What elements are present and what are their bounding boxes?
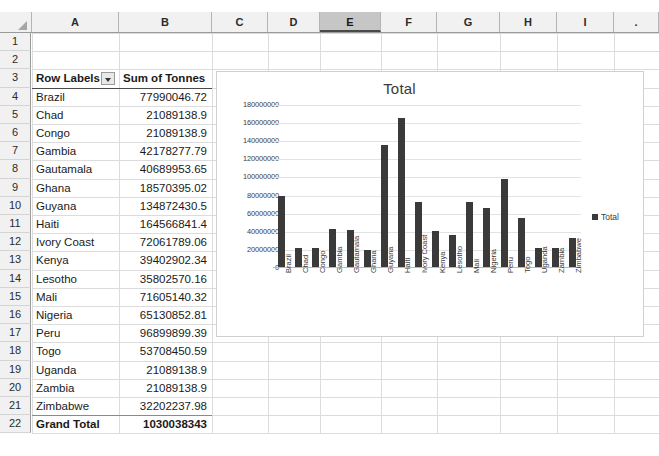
gridline-horizontal bbox=[32, 33, 659, 34]
pivot-sum-of-tonnes-header[interactable]: Sum of Tonnes bbox=[120, 70, 211, 87]
y-axis-tick-labels: 1800000001600000001400000001200000001000… bbox=[209, 72, 279, 336]
x-tick-ivory-coast: Ivory Coast bbox=[421, 235, 429, 273]
cell-country-haiti[interactable]: Haiti bbox=[33, 216, 118, 233]
cell-tonnes-uganda[interactable]: 21089138.9 bbox=[120, 362, 211, 379]
cell-country-zimbabwe[interactable]: Zimbabwe bbox=[33, 398, 118, 415]
row-header-19[interactable]: 19 bbox=[0, 361, 31, 379]
row-header-8[interactable]: 8 bbox=[0, 160, 31, 178]
column-header-b[interactable]: B bbox=[119, 12, 212, 32]
cell-tonnes-nigeria[interactable]: 65130852.81 bbox=[120, 307, 211, 324]
y-tick-40000000: 40000000 bbox=[217, 228, 279, 236]
cell-tonnes-lesotho[interactable]: 35802570.16 bbox=[120, 271, 211, 288]
y-tick-180000000: 180000000 bbox=[217, 101, 279, 109]
legend-swatch-total bbox=[592, 214, 598, 220]
x-tick-nigeria: Nigeria bbox=[490, 249, 498, 273]
row-header-15[interactable]: 15 bbox=[0, 288, 31, 306]
cell-country-guyana[interactable]: Guyana bbox=[33, 198, 118, 215]
x-tick-lesotho: Lesotho bbox=[456, 246, 464, 273]
cell-country-zambia[interactable]: Zambia bbox=[33, 380, 118, 397]
cell-country-uganda[interactable]: Uganda bbox=[33, 362, 118, 379]
cell-tonnes-brazil[interactable]: 77990046.72 bbox=[120, 89, 211, 106]
cell-tonnes-haiti[interactable]: 164566841.4 bbox=[120, 216, 211, 233]
row-header-18[interactable]: 18 bbox=[0, 342, 31, 360]
row-header-17[interactable]: 17 bbox=[0, 324, 31, 342]
row-header-22[interactable]: 22 bbox=[0, 415, 31, 433]
column-header-j-partial[interactable]: . bbox=[614, 12, 659, 32]
chart-gridline bbox=[273, 196, 581, 197]
column-header-f[interactable]: F bbox=[381, 12, 437, 32]
cell-grand-total-label[interactable]: Grand Total bbox=[33, 416, 118, 433]
x-tick-congo: Congo bbox=[319, 251, 327, 273]
x-tick-uganda: Uganda bbox=[541, 246, 549, 273]
cell-tonnes-guyana[interactable]: 134872430.5 bbox=[120, 198, 211, 215]
cell-country-ivory-coast[interactable]: Ivory Coast bbox=[33, 234, 118, 251]
chart-bar-haiti bbox=[398, 118, 405, 267]
y-tick-140000000: 140000000 bbox=[217, 137, 279, 145]
chart-gridline bbox=[273, 177, 581, 178]
cell-tonnes-togo[interactable]: 53708450.59 bbox=[120, 343, 211, 360]
column-header-g[interactable]: G bbox=[437, 12, 500, 32]
y-tick-100000000: 100000000 bbox=[217, 173, 279, 181]
cell-tonnes-zambia[interactable]: 21089138.9 bbox=[120, 380, 211, 397]
cell-tonnes-kenya[interactable]: 39402902.34 bbox=[120, 252, 211, 269]
cell-tonnes-congo[interactable]: 21089138.9 bbox=[120, 125, 211, 142]
chart-gridline bbox=[273, 214, 581, 215]
cell-tonnes-gautamala[interactable]: 40689953.65 bbox=[120, 161, 211, 178]
column-header-c[interactable]: C bbox=[212, 12, 268, 32]
row-header-14[interactable]: 14 bbox=[0, 270, 31, 288]
filter-dropdown-icon[interactable] bbox=[101, 72, 115, 85]
cell-tonnes-ghana[interactable]: 18570395.02 bbox=[120, 180, 211, 197]
row-header-6[interactable]: 6 bbox=[0, 124, 31, 142]
row-header-16[interactable]: 16 bbox=[0, 306, 31, 324]
select-all-corner-button[interactable] bbox=[0, 12, 32, 32]
x-tick-kenya: Kenya bbox=[439, 251, 447, 273]
cell-tonnes-peru[interactable]: 96899899.39 bbox=[120, 325, 211, 342]
column-header-i[interactable]: I bbox=[557, 12, 614, 32]
cell-grand-total-value[interactable]: 1030038343 bbox=[120, 416, 211, 433]
spreadsheet-application: ABCDEFGHI. 12345678910111213141516171819… bbox=[0, 0, 659, 456]
cell-country-ghana[interactable]: Ghana bbox=[33, 180, 118, 197]
x-tick-haiti: Haiti bbox=[404, 258, 412, 273]
row-header-21[interactable]: 21 bbox=[0, 397, 31, 415]
x-tick-zimbabwe: Zimbabwe bbox=[575, 238, 583, 273]
row-header-13[interactable]: 13 bbox=[0, 251, 31, 269]
gridline-horizontal bbox=[32, 51, 659, 52]
cell-tonnes-chad[interactable]: 21089138.9 bbox=[120, 107, 211, 124]
legend-label-total: Total bbox=[601, 212, 619, 222]
column-header-d[interactable]: D bbox=[268, 12, 320, 32]
row-header-4[interactable]: 4 bbox=[0, 88, 31, 106]
cell-country-kenya[interactable]: Kenya bbox=[33, 252, 118, 269]
cell-country-brazil[interactable]: Brazil bbox=[33, 89, 118, 106]
pivot-chart[interactable]: Total 1800000001600000001400000001200000… bbox=[216, 71, 644, 337]
row-header-5[interactable]: 5 bbox=[0, 106, 31, 124]
chart-legend[interactable]: Total bbox=[592, 212, 619, 222]
column-header-h[interactable]: H bbox=[500, 12, 557, 32]
row-header-1[interactable]: 1 bbox=[0, 33, 31, 51]
cell-country-gautamala[interactable]: Gautamala bbox=[33, 161, 118, 178]
row-header-10[interactable]: 10 bbox=[0, 197, 31, 215]
cell-tonnes-gambia[interactable]: 42178277.79 bbox=[120, 143, 211, 160]
row-header-2[interactable]: 2 bbox=[0, 51, 31, 69]
cell-tonnes-ivory-coast[interactable]: 72061789.06 bbox=[120, 234, 211, 251]
cell-country-gambia[interactable]: Gambia bbox=[33, 143, 118, 160]
cell-country-togo[interactable]: Togo bbox=[33, 343, 118, 360]
cell-tonnes-zimbabwe[interactable]: 32202237.98 bbox=[120, 398, 211, 415]
cell-country-peru[interactable]: Peru bbox=[33, 325, 118, 342]
row-header-11[interactable]: 11 bbox=[0, 215, 31, 233]
cell-country-nigeria[interactable]: Nigeria bbox=[33, 307, 118, 324]
row-header-12[interactable]: 12 bbox=[0, 233, 31, 251]
row-header-3[interactable]: 3 bbox=[0, 69, 31, 87]
cell-country-lesotho[interactable]: Lesotho bbox=[33, 271, 118, 288]
column-header-e[interactable]: E bbox=[320, 12, 381, 32]
chevron-down-icon bbox=[105, 78, 111, 82]
cell-tonnes-mali[interactable]: 71605140.32 bbox=[120, 289, 211, 306]
row-header-20[interactable]: 20 bbox=[0, 379, 31, 397]
row-header-7[interactable]: 7 bbox=[0, 142, 31, 160]
chart-gridline bbox=[273, 123, 581, 124]
cell-country-congo[interactable]: Congo bbox=[33, 125, 118, 142]
cell-country-chad[interactable]: Chad bbox=[33, 107, 118, 124]
column-header-a[interactable]: A bbox=[32, 12, 119, 32]
cell-country-mali[interactable]: Mali bbox=[33, 289, 118, 306]
row-header-9[interactable]: 9 bbox=[0, 179, 31, 197]
x-tick-ghana: Ghana bbox=[370, 250, 378, 273]
